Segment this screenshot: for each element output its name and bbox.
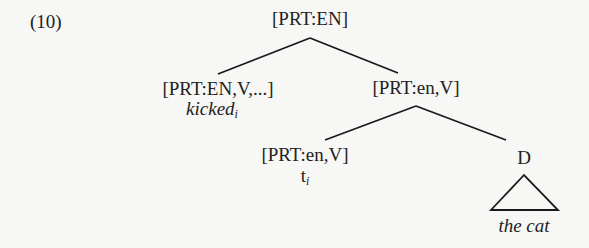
node-d-word: the cat (498, 216, 549, 235)
index-i: i (306, 174, 309, 188)
word-kicked: kicked (186, 98, 235, 119)
tree-edges (0, 0, 589, 248)
node-right: [PRT:en,V] (372, 78, 459, 97)
edge-mid-left (325, 106, 416, 140)
node-d: D (517, 148, 531, 167)
index-i: i (235, 107, 238, 121)
node-root: [PRT:EN] (272, 9, 348, 28)
triangle-icon (491, 175, 558, 210)
edge-mid-right (416, 106, 506, 140)
node-trace-word: ti (301, 166, 310, 187)
edge-root-right (310, 38, 398, 73)
edge-root-left (218, 38, 310, 74)
node-left: [PRT:EN,V,...] (162, 79, 273, 98)
node-trace: [PRT:en,V] (261, 145, 348, 164)
node-left-word: kickedi (186, 99, 238, 120)
